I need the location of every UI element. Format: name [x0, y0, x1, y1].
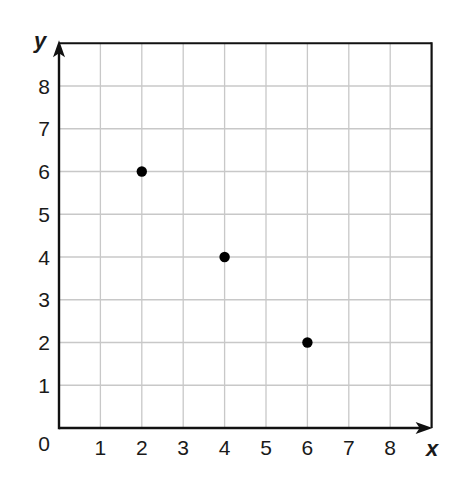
y-axis-label: y: [33, 28, 48, 53]
x-tick-label: 6: [302, 436, 314, 459]
plot-frame: [59, 42, 432, 428]
x-tick-label: 8: [384, 436, 396, 459]
axis-labels: xy: [33, 28, 439, 461]
x-tick-label: 5: [260, 436, 272, 459]
data-point: [219, 252, 229, 262]
x-axis-label: x: [425, 436, 439, 461]
x-tick-label: 1: [95, 436, 107, 459]
y-tick-label: 4: [38, 246, 50, 269]
grid-lines: [59, 43, 432, 428]
chart-canvas: 12345678123456780 xy: [0, 0, 465, 496]
y-tick-label: 7: [38, 117, 50, 140]
y-tick-label: 2: [38, 331, 50, 354]
origin-label: 0: [38, 432, 50, 455]
y-tick-label: 3: [38, 288, 50, 311]
x-tick-label: 2: [136, 436, 148, 459]
x-tick-label: 7: [343, 436, 355, 459]
y-tick-label: 5: [38, 203, 50, 226]
y-tick-label: 8: [38, 75, 50, 98]
x-tick-label: 3: [177, 436, 189, 459]
data-point: [137, 166, 147, 176]
axes: [53, 40, 433, 434]
data-point: [302, 337, 312, 347]
x-tick-label: 4: [219, 436, 231, 459]
coordinate-plane-chart: 12345678123456780 xy: [0, 0, 465, 496]
tick-labels: 12345678123456780: [38, 75, 396, 460]
y-tick-label: 6: [38, 160, 50, 183]
y-tick-label: 1: [38, 374, 50, 397]
